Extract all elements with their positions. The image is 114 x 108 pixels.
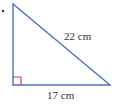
base-label: 17 cm (47, 89, 75, 101)
right-angle-marker (13, 77, 21, 85)
right-triangle (13, 4, 110, 85)
bullet-dot (2, 10, 4, 12)
triangle-diagram: 22 cm 17 cm (0, 0, 114, 108)
hypotenuse-label: 22 cm (64, 30, 92, 42)
